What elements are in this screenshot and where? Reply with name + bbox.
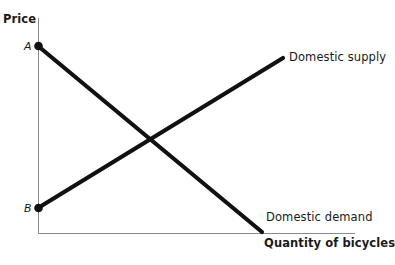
domestic-demand-label: Domestic demand [266, 212, 373, 224]
y-axis-title: Price [3, 14, 36, 26]
point-a-label: A [24, 41, 32, 52]
domestic-supply-curve [38, 58, 283, 208]
domestic-supply-label: Domestic supply [289, 52, 386, 64]
x-axis-title: Quantity of bicycles [264, 238, 395, 250]
point-b-marker [34, 204, 43, 213]
point-a-marker [34, 42, 43, 51]
point-b-label: B [24, 203, 32, 214]
